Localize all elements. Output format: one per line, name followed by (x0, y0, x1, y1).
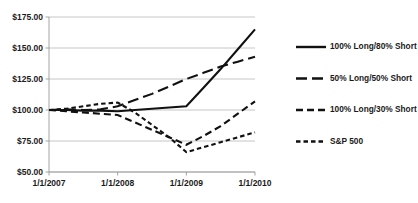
legend-label: 100% Long/80% Short (330, 41, 417, 51)
y-axis-tick-label: $100.00 (12, 105, 43, 115)
chart-background (0, 0, 418, 203)
y-axis-tick-label: $150.00 (12, 43, 43, 53)
y-axis-tick-label: $175.00 (12, 12, 43, 22)
y-axis-tick-label: $125.00 (12, 74, 43, 84)
chart-container: $50.00$75.00$100.00$125.00$150.00$175.00… (0, 0, 418, 203)
y-axis-tick-label: $50.00 (17, 167, 43, 177)
x-axis-tick-label: 1/1/2010 (238, 178, 271, 188)
x-axis-tick-label: 1/1/2008 (101, 178, 134, 188)
legend-label: S&P 500 (330, 136, 363, 146)
y-axis-tick-label: $75.00 (17, 136, 43, 146)
legend-label: 50% Long/50% Short (330, 73, 412, 83)
line-chart: $50.00$75.00$100.00$125.00$150.00$175.00… (0, 0, 418, 203)
x-axis-tick-label: 1/1/2007 (32, 178, 65, 188)
x-axis-tick-label: 1/1/2009 (170, 178, 203, 188)
legend-label: 100% Long/30% Short (330, 104, 417, 114)
